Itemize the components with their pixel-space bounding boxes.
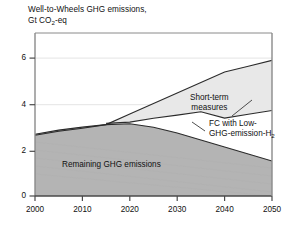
chart-canvas: [0, 0, 307, 228]
x-tick-label-2030: 2030: [160, 205, 194, 214]
annotation-fc-line2-sub: 2: [271, 132, 274, 139]
y-tick-label-4: 4: [12, 100, 26, 109]
x-axis-ticks: [35, 196, 272, 201]
annotation-short-term-line2: measures: [190, 103, 229, 113]
chart-figure: Well-to-Wheels GHG emissions, Gt CO2-eq: [0, 0, 307, 228]
y-tick-label-6: 6: [12, 53, 26, 62]
x-tick-label-2000: 2000: [18, 205, 52, 214]
annotation-fc-line2: GHG-emission-H2: [209, 129, 275, 141]
x-tick-label-2010: 2010: [65, 205, 99, 214]
y-axis-ticks: [30, 58, 36, 196]
annotation-fc-low-ghg-hydrogen: FC with Low- GHG-emission-H2: [209, 119, 275, 141]
x-tick-label-2020: 2020: [113, 205, 147, 214]
annotation-short-term-line1: Short-term: [190, 93, 229, 103]
x-tick-label-2040: 2040: [208, 205, 242, 214]
y-tick-label-0: 0: [12, 191, 26, 200]
annotation-fc-line1: FC with Low-: [209, 119, 275, 129]
annotation-fc-line2-text: GHG-emission-H: [209, 129, 271, 138]
annotation-remaining-ghg-emissions: Remaining GHG emissions: [62, 160, 161, 170]
annotation-short-term-measures: Short-term measures: [190, 93, 229, 114]
y-tick-label-2: 2: [12, 146, 26, 155]
x-tick-label-2050: 2050: [255, 205, 289, 214]
